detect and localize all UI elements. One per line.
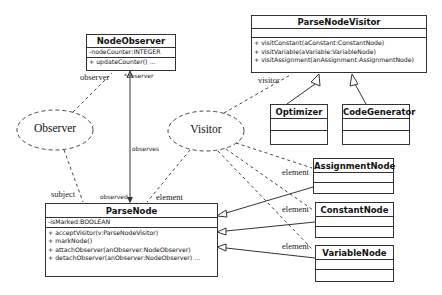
role-label-observes: observes — [132, 145, 159, 152]
class-attributes-empty — [271, 119, 327, 131]
class-parse-node-visitor[interactable]: ParseNodeVisitor + visitConstant(aConsta… — [251, 15, 427, 73]
class-name: AssignmentNode — [314, 159, 393, 173]
role-label-observer: observer — [80, 72, 109, 82]
class-constant-node[interactable]: ConstantNode — [315, 202, 394, 238]
class-attributes-empty — [314, 173, 393, 183]
class-operation: + detachObserver(anObserver:NodeObserver… — [48, 254, 215, 263]
class-optimizer[interactable]: Optimizer — [270, 104, 328, 145]
class-operations-empty — [343, 131, 409, 143]
observer-pattern-label: Observer — [17, 122, 93, 134]
class-operation: + visitAssignment(anAssignment:Assignmen… — [254, 56, 424, 65]
class-operation: + acceptVisitor(v:ParseNodeVisitor) — [48, 229, 215, 238]
role-label-star-observer: *observer — [124, 72, 153, 79]
class-name: ParseNode — [46, 204, 217, 218]
class-assignment-node[interactable]: AssignmentNode — [313, 158, 394, 194]
class-operation: + attachObserver(anObserver:NodeObserver… — [48, 246, 215, 255]
class-variable-node[interactable]: VariableNode — [315, 245, 394, 282]
class-parse-node[interactable]: ParseNode -isMarked:BOOLEAN + acceptVisi… — [45, 203, 218, 277]
class-operations-empty — [316, 270, 393, 281]
class-operation: + visitVariable(aVariable:VariableNode) — [254, 48, 424, 57]
class-operations-empty — [316, 227, 393, 237]
class-operations-empty — [314, 183, 393, 193]
role-label-visitor: visitor — [258, 75, 280, 85]
role-label-element-constant: element — [282, 204, 309, 214]
class-operation: + markNode() — [48, 237, 215, 246]
role-label-element-assignment: element — [282, 167, 309, 177]
class-attributes-empty — [316, 260, 393, 270]
class-node-observer[interactable]: NodeObserver -nodeCounter:INTEGER + upda… — [86, 34, 176, 71]
class-attributes-empty — [252, 29, 426, 38]
class-operation: + updateCounter() ... — [87, 58, 175, 67]
class-name: ParseNodeVisitor — [252, 16, 426, 29]
role-label-element-variable: element — [282, 241, 309, 251]
role-label-observed: observed — [100, 193, 128, 200]
class-operations: + acceptVisitor(v:ParseNodeVisitor) + ma… — [46, 228, 217, 263]
class-attributes-empty — [316, 217, 393, 227]
class-name: NodeObserver — [87, 35, 175, 48]
class-name: Optimizer — [271, 105, 327, 119]
class-attribute: -nodeCounter:INTEGER — [87, 48, 175, 58]
class-code-generator[interactable]: CodeGenerator — [342, 104, 410, 145]
class-name: ConstantNode — [316, 203, 393, 217]
class-name: VariableNode — [316, 246, 393, 260]
role-label-subject: subject — [51, 189, 75, 199]
class-attribute: -isMarked:BOOLEAN — [46, 218, 217, 228]
class-operations-empty — [271, 131, 327, 143]
class-operations: + visitConstant(aConstant:ConstantNode) … — [252, 38, 426, 65]
visitor-pattern-label: Visitor — [168, 123, 244, 135]
class-name: CodeGenerator — [343, 105, 409, 119]
class-attributes-empty — [343, 119, 409, 131]
class-operation: + visitConstant(aConstant:ConstantNode) — [254, 39, 424, 48]
role-label-element-parse: element — [156, 192, 183, 202]
